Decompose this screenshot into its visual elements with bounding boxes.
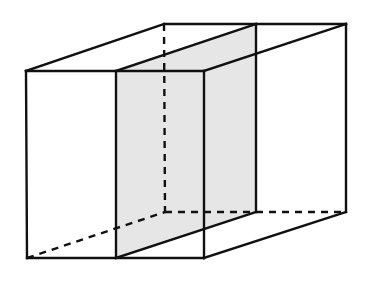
cross-section-layer	[116, 24, 256, 258]
prism-diagram	[0, 0, 370, 281]
edge-front-bottom-left-to-front-top-left	[26, 71, 27, 258]
hidden-edge-back-top-left-to-back-bottom-left	[164, 24, 165, 212]
shaded-cross-section	[116, 24, 256, 258]
